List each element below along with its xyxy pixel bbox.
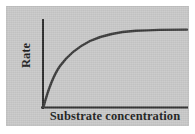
x-axis-label: Substrate concentration: [42, 109, 188, 124]
y-axis-label: Rate: [19, 33, 34, 79]
saturation-curve: [44, 30, 188, 107]
figure-screenshot: Substrate concentration Rate: [0, 0, 195, 134]
figure-panel: Substrate concentration Rate: [6, 6, 189, 126]
